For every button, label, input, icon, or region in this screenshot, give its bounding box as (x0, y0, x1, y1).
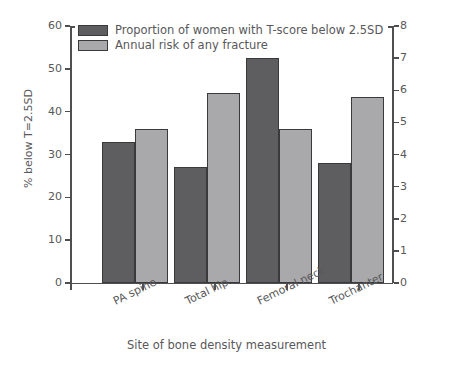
left-axis-tick-label: 40 (48, 106, 62, 117)
left-axis-tick-label: 60 (48, 20, 62, 31)
bar (279, 129, 312, 283)
left-axis-title: % below T=2.5SD (22, 39, 35, 239)
right-axis-tick-label: 3 (400, 181, 407, 192)
right-axis-tick-label: 7 (400, 52, 407, 63)
bar (351, 97, 384, 283)
left-axis-tick-label: 30 (48, 149, 62, 160)
right-axis-tick-label: 2 (400, 213, 407, 224)
legend-swatch-icon (78, 40, 108, 51)
right-axis-bottom-cap (388, 283, 393, 285)
plot-area (70, 26, 385, 283)
right-axis-tick (394, 154, 399, 156)
right-axis-tick-label: 5 (400, 116, 407, 127)
x-axis-tick (70, 283, 72, 290)
bar (318, 163, 351, 283)
left-axis-tick-label: 10 (48, 234, 62, 245)
legend-swatch-icon (78, 25, 108, 36)
right-axis-tick (394, 57, 399, 59)
right-axis-top-cap (388, 26, 393, 28)
bar (207, 93, 240, 283)
bar (135, 129, 168, 283)
left-axis-tick-label: 0 (55, 277, 62, 288)
right-axis-tick-label: 4 (400, 149, 407, 160)
right-axis-tick-label: 1 (400, 245, 407, 256)
legend-item: Proportion of women with T-score below 2… (78, 24, 383, 37)
left-axis-tick-label: 50 (48, 63, 62, 74)
right-axis-tick-label: 8 (400, 20, 407, 31)
legend-label: Proportion of women with T-score below 2… (115, 25, 383, 37)
bar (246, 58, 279, 283)
left-axis-tick-label: 20 (48, 191, 62, 202)
right-axis-tick-label: 6 (400, 84, 407, 95)
bar-chart-figure: 6050403020100 876543210 PA spineTotal hi… (0, 0, 453, 365)
right-axis-tick-label: 0 (400, 277, 407, 288)
right-axis-tick (394, 90, 399, 92)
right-axis-tick (394, 218, 399, 220)
right-axis-tick (394, 282, 399, 284)
right-axis-tick (394, 122, 399, 124)
bar (174, 167, 207, 283)
legend-item: Annual risk of any fracture (78, 39, 383, 52)
chart-legend: Proportion of women with T-score below 2… (78, 24, 383, 54)
bar (102, 142, 135, 283)
right-axis-tick (394, 250, 399, 252)
legend-label: Annual risk of any fracture (115, 40, 268, 52)
right-axis-tick (394, 186, 399, 188)
x-axis-title: Site of bone density measurement (0, 338, 453, 352)
right-axis-tick (394, 25, 399, 27)
